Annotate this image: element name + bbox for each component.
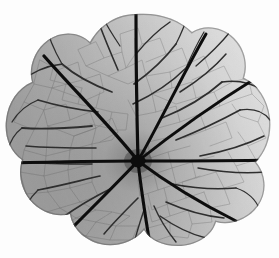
petiole-hub-halo xyxy=(124,149,152,173)
leaf-illustration xyxy=(0,0,279,258)
leaf-photograph xyxy=(0,0,279,258)
vein-east xyxy=(138,160,274,161)
